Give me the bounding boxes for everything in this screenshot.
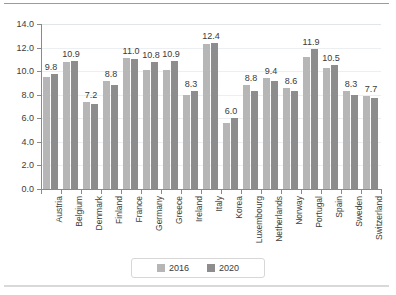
legend-item-2016[interactable]: 2016	[157, 264, 189, 273]
legend-swatch-2020	[207, 264, 215, 272]
y-axis-tick-label: 0.0	[8, 185, 34, 194]
legend-label-2020: 2020	[219, 264, 239, 273]
x-axis-tick	[341, 190, 342, 194]
y-axis-line	[41, 24, 42, 190]
bar-2016[interactable]	[63, 62, 70, 189]
x-axis-category-label: Austria	[55, 196, 64, 222]
bar-group: 11.9	[301, 24, 321, 189]
x-axis-category-label: Spain	[335, 196, 344, 218]
bar-group: 8.8	[101, 24, 121, 189]
bar-2016[interactable]	[323, 68, 330, 189]
bar-2020[interactable]	[331, 65, 338, 189]
bar-2020[interactable]	[231, 118, 238, 189]
y-axis-tick-label: 8.0	[8, 90, 34, 99]
bar-2020[interactable]	[131, 59, 138, 189]
bar-value-label: 10.9	[162, 50, 180, 59]
x-axis-tick	[141, 190, 142, 194]
x-axis-category-label: Portugal	[315, 196, 324, 228]
bar-2016[interactable]	[363, 96, 370, 189]
bar-2020[interactable]	[111, 85, 118, 189]
bar-group: 7.2	[81, 24, 101, 189]
bar-group: 8.8	[241, 24, 261, 189]
bar-value-label: 8.3	[345, 80, 358, 89]
x-axis-tick	[81, 190, 82, 194]
y-axis-tick-label: 10.0	[8, 67, 34, 76]
x-axis-category-label: Switzerland	[375, 196, 384, 240]
bar-2020[interactable]	[71, 61, 78, 189]
bar-value-label: 8.8	[105, 70, 118, 79]
x-axis-category-label: Ireland	[195, 196, 204, 222]
bar-group: 9.4	[261, 24, 281, 189]
x-axis-tick	[381, 190, 382, 194]
x-axis-tick	[121, 190, 122, 194]
chart-legend: 2016 2020	[131, 258, 265, 278]
x-axis-tick	[281, 190, 282, 194]
x-axis-line	[41, 189, 382, 190]
bar-2016[interactable]	[263, 78, 270, 189]
bar-2016[interactable]	[223, 123, 230, 189]
y-axis-tick-label: 6.0	[8, 114, 34, 123]
bar-2020[interactable]	[351, 95, 358, 189]
bar-value-label: 11.0	[123, 47, 140, 56]
x-axis-category-label: Norway	[295, 196, 304, 225]
y-axis-tick-label: 14.0	[8, 20, 34, 29]
bar-value-label: 8.3	[185, 80, 198, 89]
bar-group: 8.6	[281, 24, 301, 189]
bar-2016[interactable]	[83, 102, 90, 189]
bar-value-label: 11.9	[303, 38, 320, 47]
bar-2016[interactable]	[283, 88, 290, 189]
page-top-rule	[4, 3, 389, 4]
bar-2016[interactable]	[203, 44, 210, 189]
bar-2020[interactable]	[271, 81, 278, 189]
x-axis-tick	[361, 190, 362, 194]
bar-2020[interactable]	[311, 49, 318, 189]
bar-value-label: 8.6	[285, 77, 298, 86]
x-axis-category-label: France	[135, 196, 144, 222]
bar-value-label: 9.4	[265, 67, 278, 76]
bar-2020[interactable]	[291, 91, 298, 189]
x-axis-tick	[241, 190, 242, 194]
bar-2020[interactable]	[51, 74, 58, 190]
bar-2020[interactable]	[171, 61, 178, 189]
x-axis-category-label: Germany	[155, 196, 164, 231]
bar-2016[interactable]	[183, 95, 190, 189]
bar-2020[interactable]	[251, 91, 258, 189]
x-axis-tick	[101, 190, 102, 194]
y-axis-tick	[37, 48, 41, 49]
legend-item-2020[interactable]: 2020	[207, 264, 239, 273]
plot-area: 9.810.97.28.811.010.810.98.312.46.08.89.…	[41, 24, 381, 195]
bar-2020[interactable]	[371, 98, 378, 189]
bar-2016[interactable]	[343, 91, 350, 189]
x-axis-category-label: Belgium	[75, 196, 84, 227]
bar-value-label: 6.0	[225, 107, 238, 116]
bar-group: 8.3	[181, 24, 201, 189]
bar-value-label: 12.4	[202, 32, 220, 41]
bar-group: 10.9	[61, 24, 81, 189]
bar-2016[interactable]	[43, 77, 50, 189]
x-axis-tick	[301, 190, 302, 194]
y-axis-tick-label: 4.0	[8, 137, 34, 146]
bar-2016[interactable]	[123, 58, 130, 189]
bar-2020[interactable]	[91, 104, 98, 189]
x-axis-tick	[261, 190, 262, 194]
x-axis-category-label: Finland	[115, 196, 124, 224]
bar-2016[interactable]	[103, 81, 110, 189]
x-axis-category-label: Netherlands	[275, 196, 284, 242]
y-axis-tick	[37, 142, 41, 143]
bar-2020[interactable]	[191, 91, 198, 189]
bar-group: 8.3	[341, 24, 361, 189]
bar-value-label: 9.8	[45, 63, 58, 72]
bar-group: 7.7	[361, 24, 381, 189]
bar-2016[interactable]	[243, 85, 250, 189]
y-axis-tick-label: 2.0	[8, 161, 34, 170]
legend-label-2016: 2016	[169, 264, 189, 273]
bar-group: 9.8	[41, 24, 61, 189]
bar-2016[interactable]	[143, 70, 150, 189]
x-axis-tick	[61, 190, 62, 194]
bars-layer: 9.810.97.28.811.010.810.98.312.46.08.89.…	[41, 24, 381, 189]
bar-2020[interactable]	[211, 43, 218, 189]
bar-2020[interactable]	[151, 62, 158, 189]
bar-2016[interactable]	[303, 57, 310, 189]
bar-2016[interactable]	[163, 70, 170, 189]
bar-value-label: 7.7	[365, 85, 378, 94]
